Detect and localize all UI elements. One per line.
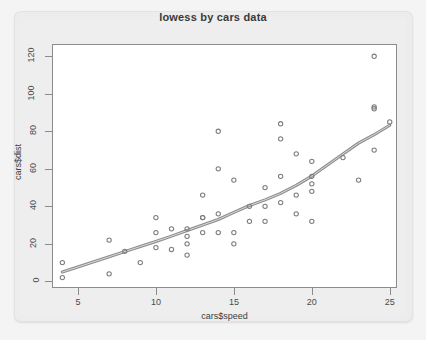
chart-title: lowess by cars data (0, 11, 426, 23)
x-axis-tick-label: 25 (370, 297, 410, 307)
data-point (185, 253, 189, 257)
data-point (107, 238, 111, 242)
y-axis-tick (45, 281, 52, 282)
data-point (154, 215, 158, 219)
y-axis-tick (45, 244, 52, 245)
y-axis-tick-label: 0 (0, 275, 38, 285)
plot-surface (53, 45, 396, 287)
data-point (60, 275, 64, 279)
data-point (185, 242, 189, 246)
data-point (294, 193, 298, 197)
screenshot-root: lowess by cars data 020406080100120 5101… (0, 0, 426, 340)
data-point (216, 230, 220, 234)
data-point (310, 182, 314, 186)
y-axis-label: cars$dist (13, 122, 23, 202)
x-axis-tick-label: 5 (58, 297, 98, 307)
y-axis-tick-text: 0 (30, 278, 40, 283)
lowess-line-core (62, 125, 389, 272)
data-point (278, 174, 282, 178)
data-point (232, 178, 236, 182)
x-axis-tick-label: 20 (292, 297, 332, 307)
data-point (232, 230, 236, 234)
data-point (201, 230, 205, 234)
data-point (185, 234, 189, 238)
y-axis-tick (45, 169, 52, 170)
x-axis-tick (156, 288, 157, 295)
chart-figure: lowess by cars data 020406080100120 5101… (0, 0, 426, 340)
y-axis-tick-text: 60 (28, 163, 38, 173)
data-point (341, 155, 345, 159)
y-axis-tick-text: 20 (28, 238, 38, 248)
data-point (294, 152, 298, 156)
data-point (201, 193, 205, 197)
data-point (169, 227, 173, 231)
data-point (278, 137, 282, 141)
data-point (247, 219, 251, 223)
y-axis-tick (45, 131, 52, 132)
data-point (232, 242, 236, 246)
x-axis-tick (312, 288, 313, 295)
data-point (60, 260, 64, 264)
x-axis-tick (78, 288, 79, 295)
data-point (216, 167, 220, 171)
data-point (310, 159, 314, 163)
x-axis-tick-label: 15 (214, 297, 254, 307)
data-point (278, 122, 282, 126)
y-axis-tick-text: 120 (25, 48, 35, 63)
y-axis-tick-text: 80 (28, 125, 38, 135)
data-point (263, 219, 267, 223)
data-point (216, 129, 220, 133)
y-axis-tick (45, 94, 52, 95)
y-axis-tick-label: 100 (0, 88, 38, 98)
data-point (372, 148, 376, 152)
y-axis-tick (45, 56, 52, 57)
x-axis-tick (234, 288, 235, 295)
data-point (388, 120, 392, 124)
y-axis-tick-label: 20 (0, 238, 38, 248)
y-axis-tick-text: 40 (28, 200, 38, 210)
data-point (310, 219, 314, 223)
x-axis-label: cars$speed (52, 311, 397, 321)
data-point (154, 245, 158, 249)
data-point (216, 212, 220, 216)
data-point (138, 260, 142, 264)
data-point (263, 185, 267, 189)
lowess-line (62, 125, 389, 272)
data-point (372, 54, 376, 58)
data-point (201, 215, 205, 219)
data-point (263, 204, 267, 208)
y-axis-tick (45, 206, 52, 207)
data-point (278, 200, 282, 204)
data-point (107, 272, 111, 276)
data-point (154, 230, 158, 234)
data-point (310, 189, 314, 193)
data-point (356, 178, 360, 182)
data-point (294, 212, 298, 216)
y-axis-tick-text: 100 (25, 85, 35, 100)
plot-area (52, 44, 397, 288)
x-axis-tick-label: 10 (136, 297, 176, 307)
scatter-svg (53, 45, 396, 287)
x-axis-tick (390, 288, 391, 295)
data-point (169, 247, 173, 251)
y-axis-tick-label: 120 (0, 50, 38, 60)
